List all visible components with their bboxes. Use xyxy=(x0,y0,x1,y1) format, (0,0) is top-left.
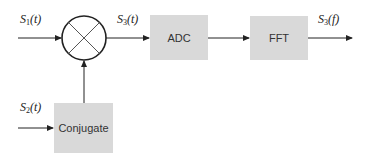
signal-label-s1: S1(t) xyxy=(20,12,41,27)
signal-label-s2: S2(t) xyxy=(20,100,41,115)
signal-label-s3f: S3(f) xyxy=(318,12,339,27)
fft-block: FFT xyxy=(250,16,308,60)
adc-block: ADC xyxy=(150,15,208,60)
mixer-icon xyxy=(62,16,106,60)
signal-label-s3t: S3(t) xyxy=(117,12,138,27)
conjugate-label: Conjugate xyxy=(58,122,108,134)
adc-label: ADC xyxy=(167,32,190,44)
fft-label: FFT xyxy=(269,32,289,44)
conjugate-block: Conjugate xyxy=(54,103,113,153)
block-diagram: ADC FFT Conjugate S1(t) S3(t) S3(f) S2(t… xyxy=(0,0,368,153)
